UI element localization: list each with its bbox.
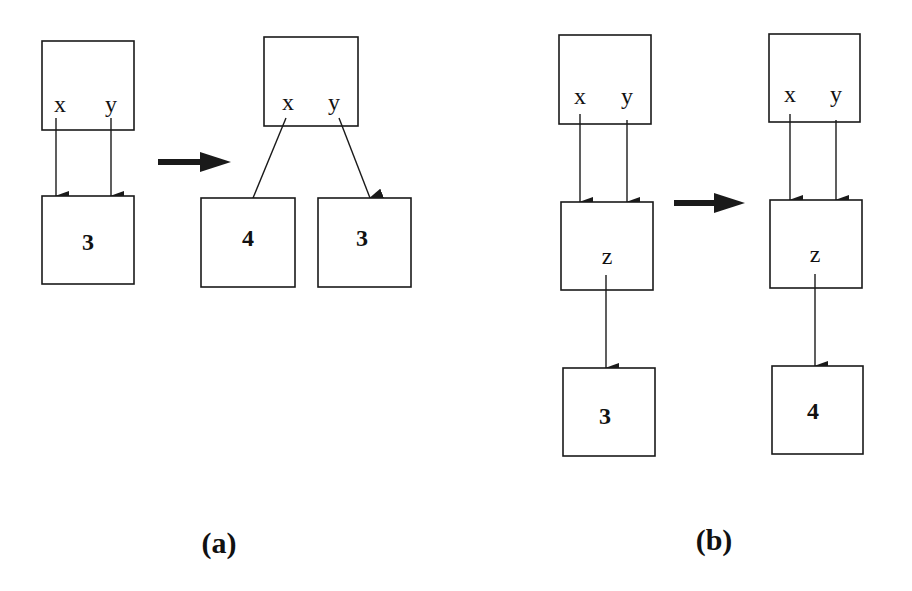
cell-y-value: 3: [356, 225, 368, 251]
caption-b: (b): [696, 523, 733, 557]
env-box: [264, 37, 358, 126]
panel-b-before: x y z 3: [559, 35, 655, 456]
panel-a-after: x y 4 3: [201, 37, 411, 287]
cell-x-value: 4: [242, 225, 254, 251]
cell-value: 3: [599, 403, 611, 429]
transition-arrow-b-icon: [674, 193, 745, 213]
var-z: z: [810, 241, 821, 267]
var-z: z: [602, 243, 613, 269]
pointer-arrow-y: [339, 118, 370, 198]
panel-a: x y 3 x y 4 3 (a): [42, 37, 411, 560]
var-y: y: [830, 81, 842, 107]
panel-b-after: x y z 4: [769, 34, 863, 454]
env-box: [559, 35, 651, 124]
diagram-canvas: x y 3 x y 4 3 (a) x: [0, 0, 912, 591]
var-y: y: [328, 89, 340, 115]
var-x: x: [784, 81, 796, 107]
caption-a: (a): [202, 526, 237, 560]
cell-value: 4: [807, 398, 819, 424]
cell-value: 3: [82, 229, 94, 255]
var-y: y: [105, 91, 117, 117]
var-y: y: [621, 83, 633, 109]
var-x: x: [574, 83, 586, 109]
var-x: x: [54, 91, 66, 117]
transition-arrow-a-icon: [158, 152, 231, 172]
pointer-arrow-x: [253, 118, 286, 198]
panel-b: x y z 3 x y z 4 (b): [559, 34, 863, 557]
env-box: [769, 34, 860, 122]
var-x: x: [282, 89, 294, 115]
panel-a-before: x y 3: [42, 41, 134, 284]
